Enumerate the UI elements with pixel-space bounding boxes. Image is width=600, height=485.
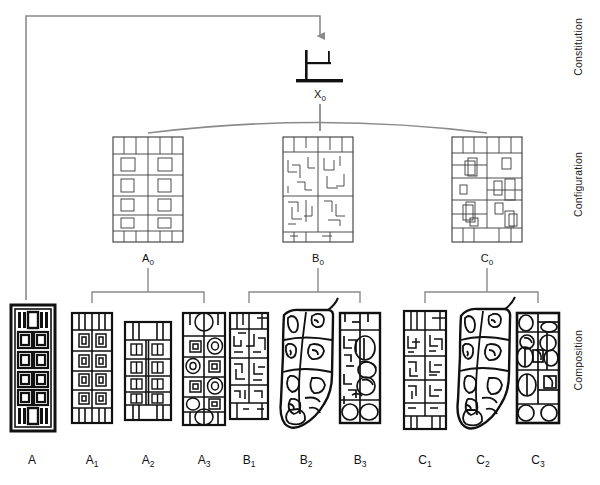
panel-C2[interactable] xyxy=(458,297,516,429)
node-label-A1: A1 xyxy=(77,453,107,469)
level-label-constitution: Constitution xyxy=(572,18,584,76)
A0-bracket xyxy=(92,268,204,303)
node-label-C2: C2 xyxy=(468,453,498,469)
panel-C1[interactable] xyxy=(404,311,446,429)
diagram-canvas: Constitution Configuration Composition X… xyxy=(0,0,600,485)
node-label-B0: B0 xyxy=(303,252,333,267)
node-label-A2: A2 xyxy=(133,453,163,469)
node-label-A: A xyxy=(17,453,47,469)
panel-C3[interactable] xyxy=(517,313,559,423)
diagram-svg xyxy=(0,0,600,485)
panel-C0[interactable] xyxy=(452,137,522,242)
node-label-C3: C3 xyxy=(523,453,553,469)
node-label-B2: B2 xyxy=(291,453,321,469)
level-label-composition: Composition xyxy=(572,330,584,391)
node-label-B3: B3 xyxy=(345,453,375,469)
node-label-B1: B1 xyxy=(234,453,264,469)
panel-A0[interactable] xyxy=(113,137,183,242)
panel-A2[interactable] xyxy=(125,322,171,420)
panel-A1[interactable] xyxy=(72,313,112,423)
level-label-configuration: Configuration xyxy=(572,152,584,217)
panel-B0[interactable] xyxy=(283,137,353,242)
C0-bracket xyxy=(425,268,538,303)
node-label-X0: X0 xyxy=(305,88,335,103)
panel-B3[interactable] xyxy=(340,313,380,423)
panel-B1[interactable] xyxy=(230,313,268,419)
node-label-C0: C0 xyxy=(472,252,502,267)
node-label-A3: A3 xyxy=(189,453,219,469)
root-glyph-X0[interactable] xyxy=(296,50,343,82)
panel-A[interactable] xyxy=(11,305,55,431)
B0-bracket xyxy=(249,268,360,303)
configuration-arc xyxy=(148,123,487,134)
node-label-A0: A0 xyxy=(133,252,163,267)
panel-A3[interactable] xyxy=(183,313,225,425)
panel-B2[interactable] xyxy=(281,298,339,428)
node-label-C1: C1 xyxy=(410,453,440,469)
